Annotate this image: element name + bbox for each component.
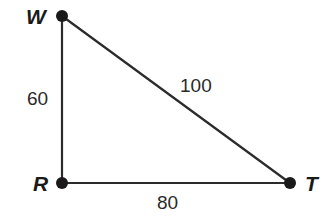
side-label-RT: 80 <box>157 193 178 212</box>
vertex-label-T: T <box>305 173 318 194</box>
vertex-label-W: W <box>26 6 46 27</box>
vertex-point-T <box>284 177 296 189</box>
vertex-point-R <box>56 177 68 189</box>
side-WT <box>62 16 290 183</box>
side-label-WT: 100 <box>180 76 212 95</box>
side-label-WR: 60 <box>27 89 48 108</box>
vertex-label-R: R <box>33 173 48 194</box>
triangle-figure <box>0 0 327 221</box>
vertex-point-W <box>56 10 68 22</box>
